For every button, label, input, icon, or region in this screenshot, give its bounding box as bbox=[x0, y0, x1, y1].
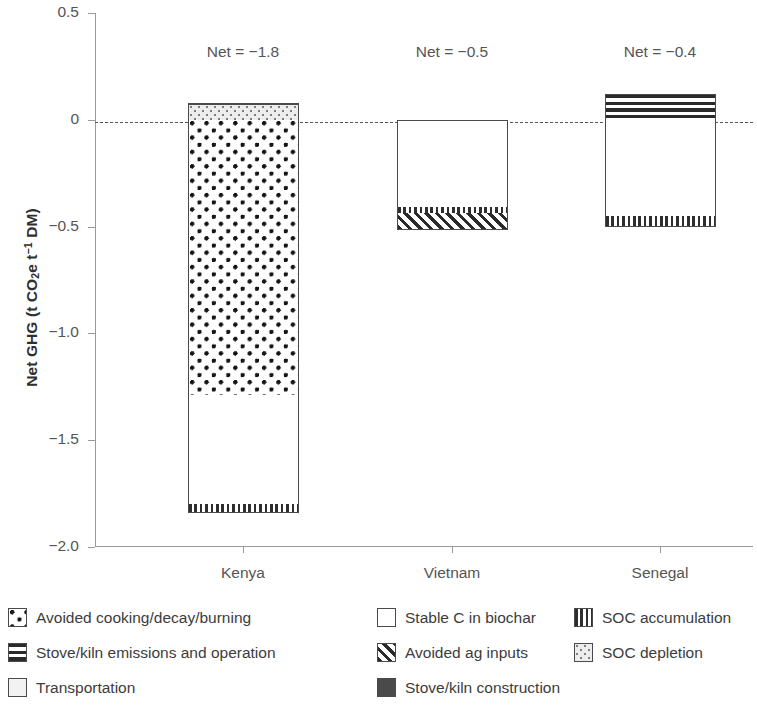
y-tick-label: −2.0 bbox=[17, 537, 79, 555]
legend-label: Avoided ag inputs bbox=[405, 645, 528, 661]
y-tick-mark bbox=[88, 547, 95, 548]
legend-swatch-icon bbox=[574, 643, 593, 662]
bar-segment[interactable] bbox=[397, 213, 508, 230]
y-tick-label: −0.5 bbox=[17, 217, 79, 235]
y-axis-label-superscript: −1 bbox=[22, 242, 34, 254]
bar-segment[interactable] bbox=[605, 120, 716, 216]
y-tick-label: −1.0 bbox=[17, 323, 79, 341]
legend-item[interactable]: Avoided cooking/decay/burning bbox=[8, 608, 377, 627]
bar-segment[interactable] bbox=[188, 105, 299, 120]
y-tick-mark bbox=[88, 440, 95, 441]
plot-area: 0.50−0.5−1.0−1.5−2.0 KenyaVietnamSenegal… bbox=[95, 13, 753, 547]
legend-label: SOC accumulation bbox=[602, 610, 731, 626]
x-tick-mark bbox=[660, 546, 661, 553]
legend-row: Avoided cooking/decay/burningStable C in… bbox=[8, 600, 757, 635]
y-tick-label: 0.5 bbox=[17, 3, 79, 21]
legend-item[interactable]: SOC accumulation bbox=[574, 608, 754, 627]
y-tick-mark bbox=[88, 227, 95, 228]
legend-row: TransportationStove/kiln construction bbox=[8, 670, 757, 705]
y-axis-label-subscript: 2 bbox=[29, 273, 41, 279]
chart-legend: Avoided cooking/decay/burningStable C in… bbox=[8, 600, 757, 705]
legend-label: Stable C in biochar bbox=[405, 610, 536, 626]
y-tick-label: 0 bbox=[17, 110, 79, 128]
y-tick-mark bbox=[88, 333, 95, 334]
x-category-label-senegal: Senegal bbox=[570, 564, 750, 582]
x-tick-mark bbox=[452, 546, 453, 553]
legend-swatch-icon bbox=[8, 608, 27, 627]
legend-label: Avoided cooking/decay/burning bbox=[36, 610, 251, 626]
legend-item[interactable]: Stove/kiln emissions and operation bbox=[8, 643, 377, 662]
bar-segment[interactable] bbox=[188, 395, 299, 504]
y-tick-mark bbox=[88, 13, 95, 14]
legend-row: Stove/kiln emissions and operationAvoide… bbox=[8, 635, 757, 670]
legend-swatch-icon bbox=[377, 678, 396, 697]
legend-item[interactable]: Stable C in biochar bbox=[377, 608, 574, 627]
legend-swatch-icon bbox=[8, 643, 27, 662]
bar-segment[interactable] bbox=[188, 120, 299, 396]
bar-kenya[interactable] bbox=[188, 13, 299, 547]
bar-segment[interactable] bbox=[605, 94, 716, 120]
legend-item[interactable]: SOC depletion bbox=[574, 643, 754, 662]
legend-swatch-icon bbox=[574, 608, 593, 627]
net-annotation-kenya: Net = −1.8 bbox=[153, 43, 333, 61]
bar-senegal[interactable] bbox=[605, 13, 716, 547]
y-tick-mark bbox=[88, 120, 95, 121]
legend-label: Transportation bbox=[36, 680, 135, 696]
bar-vietnam[interactable] bbox=[397, 13, 508, 547]
bar-segment[interactable] bbox=[188, 504, 299, 513]
y-tick-label: −1.5 bbox=[17, 430, 79, 448]
bar-segment[interactable] bbox=[605, 216, 716, 227]
legend-label: SOC depletion bbox=[602, 645, 703, 661]
legend-swatch-icon bbox=[377, 608, 396, 627]
legend-item[interactable]: Stove/kiln construction bbox=[377, 678, 574, 697]
y-axis-line bbox=[95, 13, 96, 547]
net-annotation-senegal: Net = −0.4 bbox=[570, 43, 750, 61]
figure-stacked-ghg-chart: Net GHG (t CO2e t−1 DM) 0.50−0.5−1.0−1.5… bbox=[0, 0, 757, 705]
x-tick-mark bbox=[243, 546, 244, 553]
bar-segment[interactable] bbox=[397, 120, 508, 208]
net-annotation-vietnam: Net = −0.5 bbox=[362, 43, 542, 61]
y-axis-label: Net GHG (t CO2e t−1 DM) bbox=[22, 163, 41, 433]
legend-label: Stove/kiln emissions and operation bbox=[36, 645, 276, 661]
x-category-label-vietnam: Vietnam bbox=[362, 564, 542, 582]
legend-swatch-icon bbox=[8, 678, 27, 697]
legend-item[interactable]: Avoided ag inputs bbox=[377, 643, 574, 662]
x-category-label-kenya: Kenya bbox=[153, 564, 333, 582]
y-axis-label-mid: e t bbox=[23, 254, 40, 272]
legend-swatch-icon bbox=[377, 643, 396, 662]
legend-item[interactable]: Transportation bbox=[8, 678, 377, 697]
legend-label: Stove/kiln construction bbox=[405, 680, 560, 696]
